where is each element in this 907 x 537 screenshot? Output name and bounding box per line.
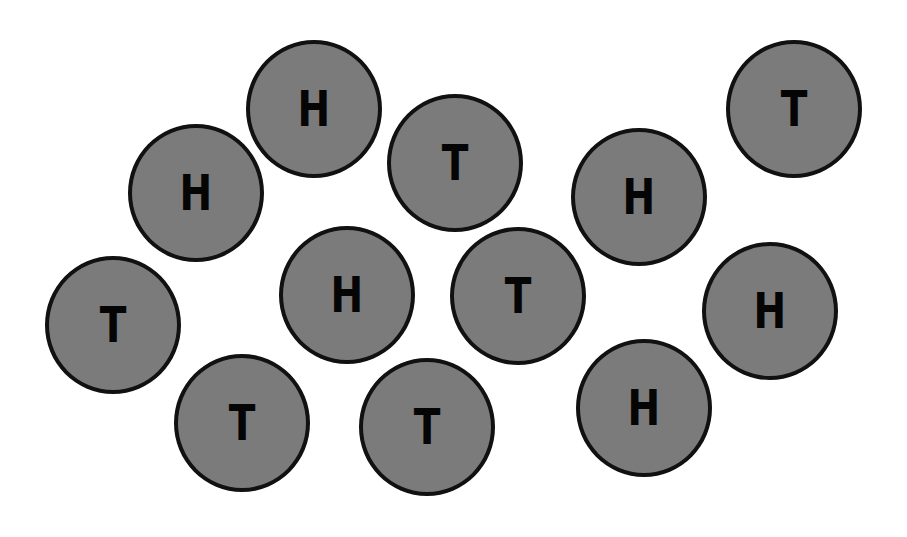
coin-tails: T xyxy=(359,358,495,496)
coin-face-label: T xyxy=(414,402,441,452)
coin-heads: H xyxy=(702,242,838,380)
coin-tails: T xyxy=(387,94,523,232)
coin-heads: H xyxy=(246,40,382,178)
coin-face-label: T xyxy=(229,398,256,448)
coin-face-label: T xyxy=(442,138,469,188)
coin-face-label: H xyxy=(331,270,364,320)
coin-tails: T xyxy=(450,227,586,365)
coin-tails: T xyxy=(726,40,862,178)
coin-heads: H xyxy=(576,339,712,477)
coin-tails: T xyxy=(174,354,310,492)
coin-face-label: T xyxy=(505,271,532,321)
coin-canvas: H T H T H T H T H T T H xyxy=(0,0,907,537)
coin-tails: T xyxy=(45,256,181,394)
coin-face-label: H xyxy=(180,168,213,218)
coin-face-label: T xyxy=(781,84,808,134)
coin-heads: H xyxy=(571,128,707,266)
coin-face-label: T xyxy=(100,300,127,350)
coin-face-label: H xyxy=(754,286,787,336)
coin-heads: H xyxy=(128,124,264,262)
coin-face-label: H xyxy=(298,84,331,134)
coin-face-label: H xyxy=(623,172,656,222)
coin-heads: H xyxy=(279,226,415,364)
coin-face-label: H xyxy=(628,383,661,433)
